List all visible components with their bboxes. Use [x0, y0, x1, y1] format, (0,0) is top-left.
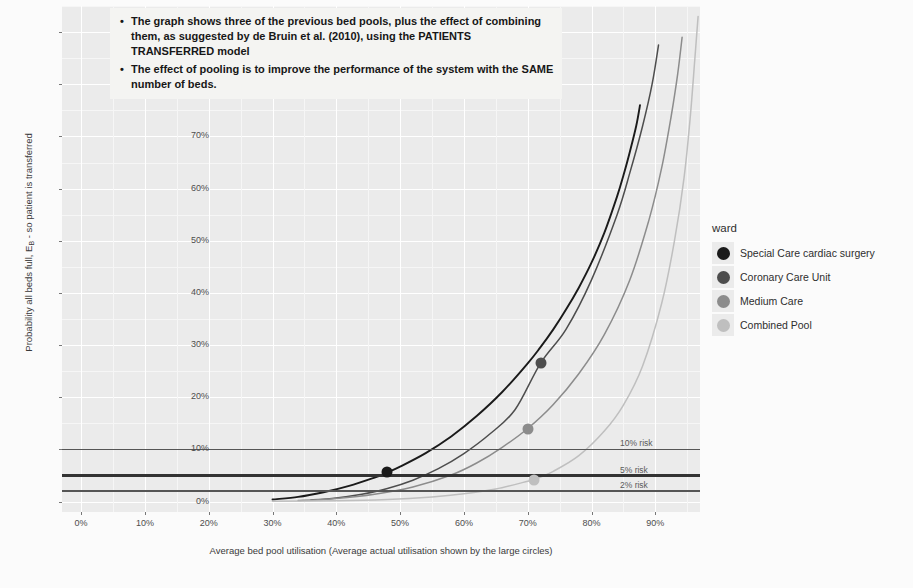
legend-dot-icon [717, 247, 730, 260]
y-tick-mark [59, 397, 62, 398]
legend-dot-icon [717, 319, 730, 332]
legend-dot-icon [717, 271, 730, 284]
y-tick-label: 20% [191, 391, 209, 401]
x-tick-label: 10% [125, 518, 165, 528]
legend-swatch [712, 266, 734, 288]
data-point-marker [522, 423, 533, 434]
series-curve [311, 45, 659, 500]
annotation-bullet: The graph shows three of the previous be… [131, 14, 554, 59]
legend-swatch [712, 290, 734, 312]
legend-items: Special Care cardiac surgeryCoronary Car… [712, 241, 908, 337]
y-tick-mark [59, 345, 62, 346]
y-tick-mark [59, 136, 62, 137]
x-tick-mark [145, 512, 146, 515]
annotation-bullet: The effect of pooling is to improve the … [131, 62, 554, 92]
series-curve [298, 37, 682, 500]
legend-dot-icon [717, 295, 730, 308]
x-tick-mark [464, 512, 465, 515]
series-curve [273, 105, 641, 499]
legend-item-label: Special Care cardiac surgery [740, 247, 875, 259]
x-tick-label: 0% [61, 518, 101, 528]
y-tick-label: 70% [191, 130, 209, 140]
x-tick-label: 80% [572, 518, 612, 528]
y-tick-mark [59, 293, 62, 294]
y-tick-label: 10% [191, 443, 209, 453]
risk-reference-line [62, 490, 700, 492]
y-tick-mark [59, 241, 62, 242]
x-tick-label: 60% [444, 518, 484, 528]
annotation-callout: The graph shows three of the previous be… [110, 8, 562, 99]
legend-item[interactable]: Combined Pool [712, 313, 908, 337]
y-tick-label: 0% [196, 496, 209, 506]
y-tick-label: 40% [191, 287, 209, 297]
x-tick-mark [655, 512, 656, 515]
y-tick-label: 30% [191, 339, 209, 349]
risk-reference-line [62, 474, 700, 477]
x-tick-label: 40% [316, 518, 356, 528]
x-tick-mark [336, 512, 337, 515]
y-tick-mark [59, 502, 62, 503]
x-tick-mark [400, 512, 401, 515]
x-tick-mark [81, 512, 82, 515]
risk-reference-line [62, 449, 700, 451]
y-tick-mark [59, 189, 62, 190]
legend-item[interactable]: Special Care cardiac surgery [712, 241, 908, 265]
legend-item-label: Coronary Care Unit [740, 271, 830, 283]
data-point-marker [535, 358, 546, 369]
x-tick-label: 70% [508, 518, 548, 528]
x-tick-label: 90% [635, 518, 675, 528]
data-point-marker [382, 467, 393, 478]
y-tick-mark [59, 84, 62, 85]
annotation-list: The graph shows three of the previous be… [118, 14, 554, 92]
risk-line-label: 10% risk [620, 438, 653, 448]
chart-root: 10% risk5% risk2% risk 0%10%20%30%40%50%… [0, 0, 913, 588]
risk-line-label: 5% risk [620, 465, 648, 475]
y-axis-label: Probability all beds full, EB - so patie… [23, 127, 36, 357]
y-tick-label: 60% [191, 183, 209, 193]
legend-swatch [712, 242, 734, 264]
y-tick-mark [59, 32, 62, 33]
x-tick-label: 50% [380, 518, 420, 528]
legend: ward Special Care cardiac surgeryCoronar… [712, 222, 908, 337]
x-tick-mark [528, 512, 529, 515]
y-tick-label: 50% [191, 235, 209, 245]
y-tick-mark [59, 449, 62, 450]
x-tick-mark [273, 512, 274, 515]
legend-title: ward [712, 222, 908, 234]
legend-item-label: Medium Care [740, 295, 803, 307]
legend-item[interactable]: Coronary Care Unit [712, 265, 908, 289]
x-tick-mark [209, 512, 210, 515]
legend-item-label: Combined Pool [740, 319, 812, 331]
x-tick-label: 20% [189, 518, 229, 528]
x-axis-label: Average bed pool utilisation (Average ac… [62, 545, 700, 556]
legend-swatch [712, 314, 734, 336]
data-point-marker [529, 474, 540, 485]
x-tick-label: 30% [253, 518, 293, 528]
x-tick-mark [592, 512, 593, 515]
legend-item[interactable]: Medium Care [712, 289, 908, 313]
risk-line-label: 2% risk [620, 480, 648, 490]
